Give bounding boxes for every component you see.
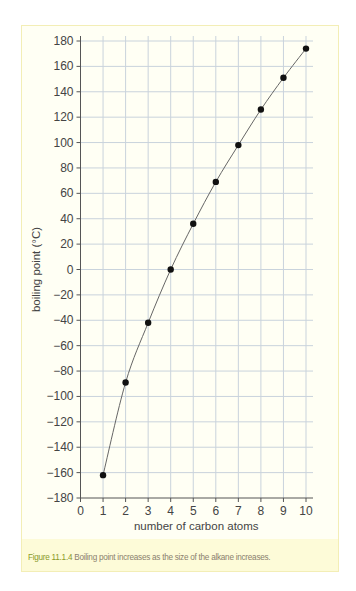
y-tick-label: 80 (60, 161, 74, 175)
data-point-marker (280, 75, 286, 81)
x-tick-label: 4 (167, 504, 174, 518)
boiling-point-curve (103, 49, 306, 476)
y-tick-label: 120 (53, 110, 73, 124)
data-point-marker (145, 320, 151, 326)
x-tick-label: 9 (280, 504, 287, 518)
x-tick-label: 6 (212, 504, 219, 518)
y-axis-label: boiling point (°C) (30, 227, 42, 312)
y-tick-label: −160 (46, 466, 73, 480)
data-point-marker (303, 45, 309, 51)
y-tick-label: 180 (53, 34, 73, 48)
data-point-marker (122, 379, 128, 385)
x-tick-label: 5 (190, 504, 197, 518)
y-tick-label: −80 (53, 364, 74, 378)
data-point-marker (213, 179, 219, 185)
x-tick-label: 8 (258, 504, 265, 518)
y-tick-label: 100 (53, 136, 73, 150)
y-tick-label: 160 (53, 59, 73, 73)
data-point-marker (235, 142, 241, 148)
x-axis-label: number of carbon atoms (134, 520, 259, 532)
y-tick-label: −100 (46, 389, 73, 403)
x-tick-label: 2 (122, 504, 129, 518)
y-tick-label: 60 (60, 186, 74, 200)
y-tick-label: −60 (53, 339, 74, 353)
y-tick-label: −20 (53, 288, 74, 302)
y-tick-label: −180 (46, 491, 73, 505)
y-tick-label: 0 (67, 263, 74, 277)
x-tick-label: 10 (299, 504, 313, 518)
x-tick-label: 1 (100, 504, 107, 518)
x-tick-label: 3 (145, 504, 152, 518)
y-tick-label: 140 (53, 85, 73, 99)
y-tick-label: −120 (46, 415, 73, 429)
data-point-marker (168, 266, 174, 272)
y-tick-label: −140 (46, 440, 73, 454)
y-tick-label: 40 (60, 212, 74, 226)
x-tick-label: 0 (77, 504, 84, 518)
y-tick-label: 20 (60, 237, 74, 251)
data-point-marker (258, 106, 264, 112)
data-point-marker (100, 472, 106, 478)
y-tick-label: −40 (53, 313, 74, 327)
boiling-point-chart: 180160140120100806040200−20−40−60−80−100… (0, 0, 356, 591)
data-point-marker (190, 221, 196, 227)
x-tick-label: 7 (235, 504, 242, 518)
